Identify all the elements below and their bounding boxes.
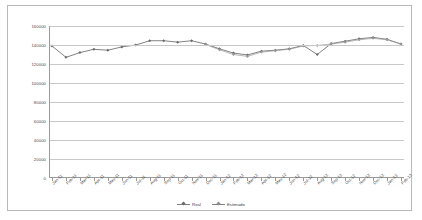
- gridline: [49, 140, 404, 141]
- data-point-marker: [162, 39, 165, 42]
- series-line: [52, 37, 401, 57]
- data-point-marker: [78, 51, 81, 54]
- chart-frame: 0200004000060000800001000001200001400001…: [7, 5, 412, 211]
- gridline: [49, 26, 404, 27]
- y-axis-tick-label: 80000: [34, 100, 46, 105]
- chart-legend: RealEstimado: [0, 198, 422, 210]
- y-axis-tick-label: 20000: [34, 157, 46, 162]
- data-point-marker: [148, 39, 151, 42]
- y-axis-tick-label: 60000: [34, 119, 46, 124]
- gridline: [49, 102, 404, 103]
- data-point-marker: [190, 39, 193, 42]
- legend-item[interactable]: Estimado: [212, 202, 245, 207]
- legend-marker-icon: [212, 204, 225, 205]
- gridline: [49, 83, 404, 84]
- legend-marker-icon: [177, 204, 190, 205]
- legend-label: Real: [192, 202, 201, 207]
- gridline: [49, 64, 404, 65]
- gridline: [49, 159, 404, 160]
- gridline: [49, 45, 404, 46]
- y-axis-tick-label: 100000: [31, 81, 46, 86]
- y-axis-tick-label: 0: [44, 176, 46, 181]
- gridline: [49, 121, 404, 122]
- y-axis-tick-label: 40000: [34, 138, 46, 143]
- legend-label: Estimado: [227, 202, 245, 207]
- y-axis-tick-label: 140000: [31, 43, 46, 48]
- y-axis: 0200004000060000800001000001200001400001…: [8, 26, 46, 178]
- y-axis-tick-label: 120000: [31, 62, 46, 67]
- data-point-marker: [176, 41, 179, 44]
- legend-item[interactable]: Real: [177, 202, 201, 207]
- plot-area: [49, 26, 404, 178]
- y-axis-tick-label: 160000: [31, 24, 46, 29]
- data-point-marker: [106, 49, 109, 52]
- data-point-marker: [274, 49, 277, 52]
- data-point-marker: [92, 48, 95, 51]
